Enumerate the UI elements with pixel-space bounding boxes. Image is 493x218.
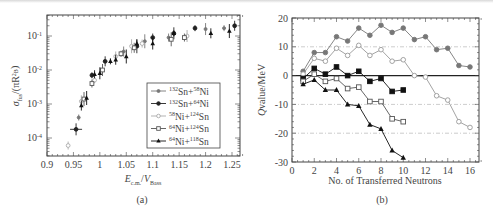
y-tick-label: -10: [275, 99, 288, 110]
data-point-square: [356, 69, 361, 74]
x-tick-label: 1.2: [199, 159, 212, 170]
data-point-triangle: [124, 54, 129, 58]
data-point-square: [334, 65, 339, 70]
data-point-square: [312, 72, 317, 77]
series-line: [303, 74, 403, 122]
series-b-4: [301, 72, 406, 124]
data-point-circle: [334, 34, 339, 39]
data-point-circle: [312, 56, 317, 61]
plot-frame: [292, 18, 479, 162]
data-point-square: [345, 73, 350, 78]
x-tick-label: 2: [312, 165, 317, 176]
data-point-circle: [412, 37, 417, 42]
y-tick-label: -20: [275, 128, 288, 139]
x-tick-label: 1.25: [223, 159, 241, 170]
data-point-circle: [204, 28, 207, 31]
data-point-circle: [157, 114, 161, 118]
data-point-circle: [233, 24, 237, 28]
data-point-square: [401, 88, 406, 93]
y-tick-label: 10-3: [27, 98, 42, 109]
data-point-circle: [445, 46, 450, 51]
data-point-square: [132, 46, 136, 50]
data-point-circle: [323, 59, 328, 64]
data-point-circle: [434, 93, 439, 98]
legend-entry-label: 58Ni+124Sn: [169, 111, 209, 122]
data-point-circle: [356, 43, 361, 48]
data-point-square: [323, 72, 328, 77]
data-point-circle: [457, 119, 462, 124]
data-point-circle: [390, 30, 395, 35]
series-b-1: [301, 23, 472, 74]
data-point-square: [157, 127, 161, 131]
data-point-triangle: [401, 155, 406, 160]
y-tick-label: 10-1: [27, 30, 42, 41]
y-tick-label: -30: [275, 157, 288, 168]
caption-a: (a): [136, 194, 147, 206]
data-point-square: [401, 119, 406, 124]
data-point-circle: [356, 26, 361, 31]
data-point-circle: [379, 47, 384, 52]
caption-b: (b): [376, 194, 388, 206]
series-b-2: [301, 43, 472, 130]
data-point-square: [323, 79, 328, 84]
y-tick-label: 10: [278, 41, 288, 52]
data-point-circle: [323, 50, 328, 55]
data-point-circle: [157, 102, 161, 106]
x-tick-label: 1: [97, 159, 102, 170]
data-point-circle: [74, 127, 78, 131]
data-point-circle: [157, 90, 160, 93]
data-point-square: [368, 79, 373, 84]
y-tick-label: 10-4: [27, 132, 42, 143]
legend-entry-label: 64Ni+118Sn: [169, 136, 209, 147]
data-point-square: [183, 36, 187, 40]
data-point-square: [379, 99, 384, 104]
data-point-triangle: [209, 31, 214, 35]
data-point-square: [390, 117, 395, 122]
data-point-square: [345, 86, 350, 91]
legend: 132Sn+58Ni132Sn+64Ni58Ni+124Sn64Ni+124Sn…: [147, 83, 220, 148]
x-tick-label: 1.15: [170, 159, 188, 170]
data-point-circle: [457, 63, 462, 68]
data-point-circle: [140, 42, 144, 46]
data-point-circle: [334, 46, 339, 51]
data-point-circle: [312, 50, 317, 55]
series-line: [303, 25, 470, 71]
y-axis-title: Qvalue/MeV: [256, 63, 267, 116]
x-tick-label: 0.95: [65, 159, 83, 170]
x-tick-label: 0.9: [41, 159, 54, 170]
x-tick-label: 0: [290, 165, 295, 176]
data-point-square: [312, 66, 317, 71]
data-point-square: [368, 99, 373, 104]
data-point-circle: [401, 57, 406, 62]
data-point-circle: [434, 47, 439, 52]
x-tick-label: 1.05: [118, 159, 136, 170]
data-point-circle: [103, 59, 107, 63]
data-point-circle: [423, 75, 428, 80]
data-point-circle: [423, 34, 428, 39]
series-b-3: [301, 65, 406, 94]
data-point-triangle: [150, 41, 155, 45]
data-point-square: [334, 76, 339, 81]
legend-entry-label: 64Ni+124Sn: [169, 124, 209, 135]
chart-panel-b: 024681012141620100-10-20-30Qvalue/MeVNo.…: [256, 13, 481, 187]
data-point-square: [90, 82, 94, 86]
data-point-circle: [77, 116, 80, 119]
data-point-circle: [468, 65, 473, 70]
data-point-triangle: [135, 41, 140, 45]
data-point-triangle: [227, 29, 232, 33]
y-tick-label: 0: [283, 70, 288, 81]
y-tick-label: 20: [278, 13, 288, 24]
data-point-square: [101, 68, 105, 72]
data-point-square: [119, 52, 123, 56]
data-point-circle: [223, 27, 226, 30]
data-point-circle: [468, 125, 473, 130]
data-point-triangle: [389, 148, 394, 153]
data-point-circle: [390, 59, 395, 64]
x-tick-label: 14: [443, 165, 453, 176]
figure-canvas: 0.90.9511.051.11.151.21.2510-410-310-210…: [0, 0, 493, 218]
data-point-circle: [401, 26, 406, 31]
data-point-triangle: [367, 122, 372, 127]
data-point-circle: [445, 98, 450, 103]
chart-panel-a: 0.90.9511.051.11.151.21.2510-410-310-210…: [9, 15, 243, 186]
data-point-triangle: [312, 77, 317, 82]
